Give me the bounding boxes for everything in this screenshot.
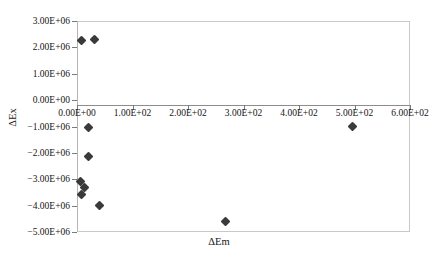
y-axis-tick-mark xyxy=(72,127,77,128)
y-axis-tick-label: −4.00E+06 xyxy=(0,201,70,211)
y-axis-tick-label: −3.00E+06 xyxy=(0,174,70,184)
y-axis-tick-mark xyxy=(72,153,77,154)
y-axis-tick-mark xyxy=(72,47,77,48)
y-axis-tick-label: 1.00E+06 xyxy=(0,69,70,79)
y-axis-tick-label: 3.00E+06 xyxy=(0,16,70,26)
y-axis-tick-mark xyxy=(72,100,77,101)
y-axis-tick-label-wrap: 3.00E+06 xyxy=(0,16,70,26)
y-axis-title: ΔEx xyxy=(7,88,18,148)
y-axis-tick-mark xyxy=(72,21,77,22)
scatter-chart: 3.00E+062.00E+061.00E+060.00E+00−1.00E+0… xyxy=(0,0,438,258)
y-axis-tick-label: 2.00E+06 xyxy=(0,42,70,52)
y-axis-tick-label-wrap: 1.00E+06 xyxy=(0,69,70,79)
x-axis-tick-label: 6.00E+02 xyxy=(370,108,438,119)
y-axis-tick-label-wrap: −2.00E+06 xyxy=(0,148,70,158)
y-axis-tick-label-wrap: −3.00E+06 xyxy=(0,174,70,184)
x-axis-title: ΔEm xyxy=(0,236,438,247)
y-axis-tick-label-wrap: 2.00E+06 xyxy=(0,42,70,52)
y-axis-tick-mark xyxy=(72,206,77,207)
plot-area xyxy=(77,21,410,232)
y-axis-tick-mark xyxy=(72,232,77,233)
y-axis-tick-label-wrap: −4.00E+06 xyxy=(0,201,70,211)
y-axis-tick-mark xyxy=(72,74,77,75)
y-axis-tick-label: −2.00E+06 xyxy=(0,148,70,158)
